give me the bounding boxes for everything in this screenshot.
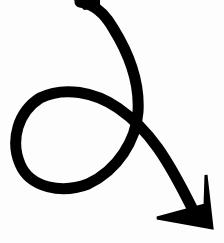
drawing-canvas — [0, 0, 224, 243]
arrow-shaft — [16, 2, 192, 208]
curly-arrow-icon — [0, 0, 224, 243]
